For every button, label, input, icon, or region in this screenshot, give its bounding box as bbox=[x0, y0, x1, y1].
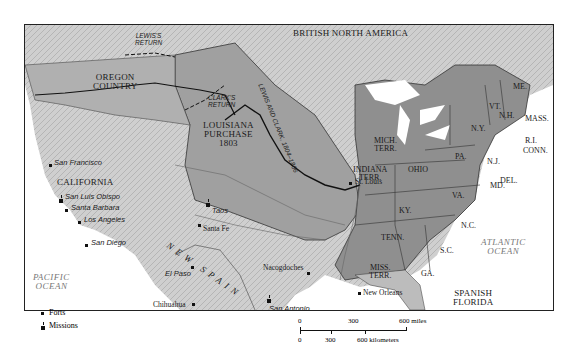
label-pa: PA. bbox=[455, 153, 467, 161]
label-va: VA. bbox=[452, 192, 465, 200]
label-louisiana-year: 1803 bbox=[203, 139, 254, 148]
miss-2: TERR. bbox=[369, 272, 391, 280]
label-me: ME. bbox=[513, 83, 527, 91]
label-clark-return: CLARK'S RETURN bbox=[208, 95, 235, 108]
label-conn: CONN. bbox=[523, 147, 548, 155]
scale-km-600: 600 kilometers bbox=[357, 336, 399, 344]
city-santa-fe: Santa Fe bbox=[203, 225, 229, 233]
city-san-diego: San Diego bbox=[91, 239, 126, 247]
city-nacogdoches: Nacogdoches bbox=[263, 264, 303, 272]
label-florida-line2: FLORIDA bbox=[453, 298, 493, 307]
label-lewis-return: LEWIS'S RETURN bbox=[135, 33, 162, 46]
label-nj: N.J. bbox=[487, 158, 500, 166]
town-icon bbox=[192, 303, 195, 306]
label-md: MD. bbox=[490, 182, 505, 190]
label-ky: KY. bbox=[399, 207, 412, 215]
fort-icon bbox=[49, 164, 52, 167]
town-icon bbox=[349, 182, 352, 185]
city-taos: Taos bbox=[212, 207, 228, 215]
label-mich-terr: MICH. TERR. bbox=[374, 137, 397, 153]
town-icon bbox=[307, 272, 310, 275]
scale-miles-0: 0 bbox=[298, 317, 302, 325]
label-mass: MASS. bbox=[525, 115, 549, 123]
city-san-luis-obispo: San Luis Obispo bbox=[65, 193, 120, 201]
fort-icon bbox=[78, 221, 81, 224]
atlantic-2: OCEAN bbox=[481, 247, 526, 256]
scale-km-0: 0 bbox=[298, 336, 302, 344]
legend-forts-label: Forts bbox=[49, 308, 65, 317]
city-new-orleans: New Orleans bbox=[363, 289, 402, 297]
town-icon bbox=[358, 292, 361, 295]
fort-icon bbox=[191, 266, 194, 269]
label-ri: R.I. bbox=[525, 137, 537, 145]
label-atlantic-ocean: ATLANTIC OCEAN bbox=[481, 238, 526, 256]
label-louisiana-purchase: LOUISIANA PURCHASE 1803 bbox=[203, 121, 254, 148]
label-lewis-return-2: RETURN bbox=[135, 40, 162, 47]
label-nh: N.H. bbox=[499, 112, 515, 120]
scale-miles-600: 600 miles bbox=[399, 317, 426, 325]
fort-icon bbox=[41, 312, 44, 315]
city-san-francisco: San Francisco bbox=[54, 159, 102, 167]
fort-icon bbox=[85, 244, 88, 247]
pacific-2: OCEAN bbox=[33, 282, 70, 291]
label-clark-return-2: RETURN bbox=[208, 102, 235, 109]
map-frame: BRITISH NORTH AMERICA OREGON COUNTRY LOU… bbox=[24, 24, 554, 311]
mission-icon bbox=[267, 299, 271, 303]
label-oregon: OREGON COUNTRY bbox=[93, 73, 137, 91]
fort-icon bbox=[65, 209, 68, 212]
mich-2: TERR. bbox=[374, 145, 397, 153]
mission-icon bbox=[41, 326, 45, 330]
scale-km-mid bbox=[331, 330, 332, 334]
city-el-paso: El Paso bbox=[165, 270, 191, 278]
label-california: CALIFORNIA bbox=[57, 178, 114, 187]
label-ohio: OHIO bbox=[408, 166, 428, 174]
city-santa-barbara: Santa Barbara bbox=[71, 204, 119, 212]
label-sc: S.C. bbox=[440, 247, 454, 255]
label-british-north-america: BRITISH NORTH AMERICA bbox=[293, 29, 408, 38]
label-ga: GA. bbox=[421, 270, 435, 278]
city-st-louis: St. Louis bbox=[355, 178, 382, 186]
label-tenn: TENN. bbox=[381, 234, 404, 242]
label-ny: N.Y. bbox=[471, 125, 486, 133]
label-miss-terr: MISS. TERR. bbox=[369, 264, 391, 280]
legend-missions-label: Missions bbox=[49, 321, 78, 330]
label-spanish-florida: SPANISH FLORIDA bbox=[453, 289, 493, 307]
mission-icon bbox=[206, 203, 210, 207]
label-pacific-ocean: PACIFIC OCEAN bbox=[33, 273, 70, 291]
city-chihuahua: Chihuahua bbox=[153, 301, 186, 309]
town-icon bbox=[198, 224, 201, 227]
label-vt: VT. bbox=[489, 103, 501, 111]
scale-km-300: 300 bbox=[325, 336, 336, 344]
label-oregon-line2: COUNTRY bbox=[93, 82, 137, 91]
scale-miles-300: 300 bbox=[348, 317, 359, 325]
mission-icon bbox=[59, 199, 63, 203]
city-san-antonio: San Antonio bbox=[269, 305, 310, 311]
scale-km-bar bbox=[300, 330, 366, 334]
label-nc: N.C. bbox=[461, 222, 476, 230]
city-los-angeles: Los Angeles bbox=[84, 216, 125, 224]
